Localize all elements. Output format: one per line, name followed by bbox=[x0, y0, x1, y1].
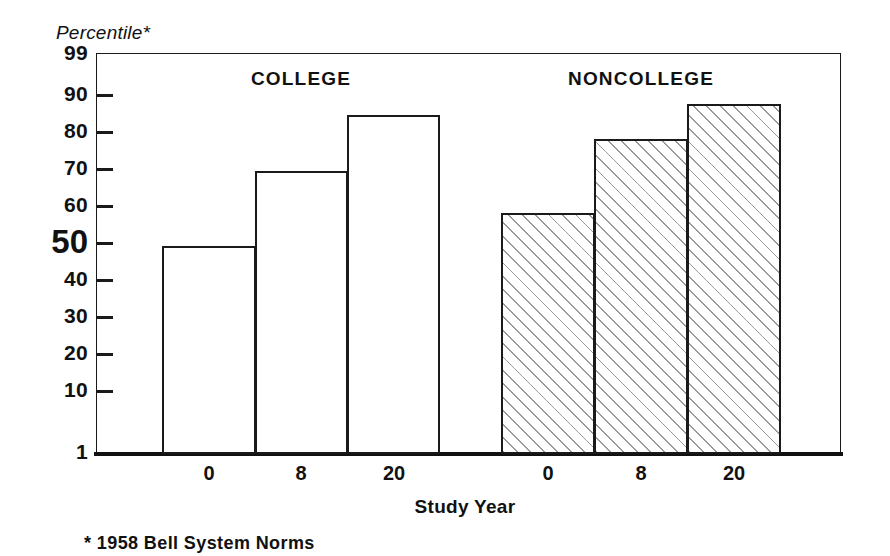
bar-chart-figure: Percentile* 99 90 80 70 60 50 40 30 20 1… bbox=[0, 0, 890, 556]
y-tick-label-80: 80 bbox=[32, 120, 88, 141]
y-tick-50 bbox=[96, 242, 113, 245]
y-tick-60 bbox=[96, 205, 113, 208]
bar-college-20 bbox=[347, 115, 440, 454]
y-tick-80 bbox=[96, 131, 113, 134]
bar-noncollege-8 bbox=[594, 139, 688, 454]
y-tick-label-30: 30 bbox=[32, 305, 88, 326]
y-tick-40 bbox=[96, 279, 113, 282]
group-label-noncollege: NONCOLLEGE bbox=[568, 68, 714, 90]
x-tick-label-college-0: 0 bbox=[203, 462, 214, 485]
bar-college-0 bbox=[162, 246, 256, 454]
y-tick-label-70: 70 bbox=[32, 157, 88, 178]
y-tick-20 bbox=[96, 353, 113, 356]
y-tick-label-50: 50 bbox=[32, 225, 88, 258]
bar-noncollege-0 bbox=[501, 213, 595, 454]
y-tick-label-20: 20 bbox=[32, 342, 88, 363]
y-tick-label-60: 60 bbox=[32, 194, 88, 215]
y-tick-label-1: 1 bbox=[32, 441, 88, 462]
x-axis-title: Study Year bbox=[415, 496, 516, 518]
y-tick-label-10: 10 bbox=[32, 379, 88, 400]
x-tick-label-college-8: 8 bbox=[295, 462, 306, 485]
chart-footnote: * 1958 Bell System Norms bbox=[84, 533, 315, 554]
y-tick-label-90: 90 bbox=[32, 83, 88, 104]
bar-college-8 bbox=[255, 171, 348, 454]
x-tick-label-college-20: 20 bbox=[383, 462, 405, 485]
x-tick-label-noncollege-20: 20 bbox=[723, 462, 745, 485]
x-tick-label-noncollege-8: 8 bbox=[635, 462, 646, 485]
y-tick-label-99: 99 bbox=[32, 42, 88, 63]
bar-noncollege-20 bbox=[687, 104, 781, 454]
y-tick-30 bbox=[96, 316, 113, 319]
y-tick-70 bbox=[96, 168, 113, 171]
y-tick-label-40: 40 bbox=[32, 268, 88, 289]
y-tick-10 bbox=[96, 390, 113, 393]
y-tick-90 bbox=[96, 94, 113, 97]
group-label-college: COLLEGE bbox=[251, 68, 351, 90]
x-tick-label-noncollege-0: 0 bbox=[542, 462, 553, 485]
